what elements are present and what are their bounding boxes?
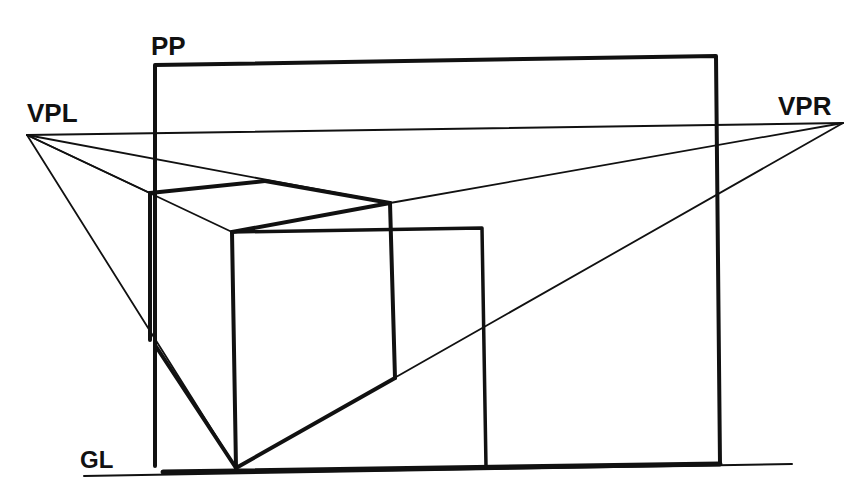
box-top-back-edge [265, 181, 390, 203]
box-bottom-left-edge [155, 345, 236, 468]
vanishing-point-right-label: VPR [778, 93, 831, 119]
box-bottom-right-edge [236, 378, 395, 468]
box-front-edge [232, 232, 236, 468]
box-top-front-edge [232, 203, 390, 232]
perspective-diagram [0, 0, 864, 489]
box-top-left-edge [150, 181, 265, 193]
ground-line-label: GL [80, 448, 113, 472]
picture-plane-rect [155, 56, 720, 466]
picture-plane-label: PP [151, 33, 186, 59]
horizon-line [27, 123, 843, 135]
vanishing-point-left-label: VPL [27, 100, 78, 126]
vpr-ray-top [390, 123, 843, 203]
